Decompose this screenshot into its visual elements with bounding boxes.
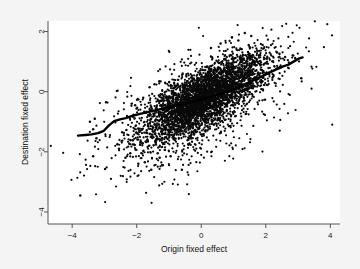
data-point (215, 146, 217, 148)
data-point (244, 92, 246, 94)
data-point (136, 121, 138, 123)
data-point (175, 138, 177, 140)
data-point (179, 85, 181, 87)
data-point (202, 72, 204, 74)
data-point (212, 77, 214, 79)
data-point (238, 100, 240, 102)
data-point (118, 148, 121, 151)
data-point (50, 145, 52, 147)
data-point (252, 55, 254, 57)
data-point (214, 62, 216, 64)
data-point (225, 80, 227, 82)
data-point (106, 146, 108, 148)
data-point (263, 84, 265, 86)
data-point (177, 183, 179, 185)
data-point (189, 108, 191, 110)
data-point (275, 85, 277, 87)
data-point (187, 174, 189, 176)
data-point (186, 171, 188, 173)
data-point (148, 144, 150, 146)
data-point (135, 124, 137, 126)
data-point (115, 185, 117, 187)
data-point (132, 135, 134, 137)
data-point (129, 152, 132, 155)
data-point (183, 90, 185, 92)
data-point (240, 94, 242, 96)
data-point (235, 144, 237, 146)
data-point (235, 82, 237, 84)
data-point (140, 104, 142, 106)
data-point (315, 66, 317, 68)
data-point (205, 129, 207, 131)
data-point (220, 101, 222, 103)
data-point (216, 86, 218, 88)
data-point (89, 131, 91, 133)
data-point (279, 90, 281, 92)
data-point (246, 58, 248, 60)
data-point (168, 143, 170, 145)
data-point (110, 178, 112, 180)
data-point (123, 148, 125, 150)
data-point (182, 132, 184, 134)
data-point (227, 48, 229, 50)
data-point (231, 77, 233, 79)
x-tick-label: 2 (264, 231, 269, 240)
data-point (164, 146, 166, 148)
data-point (175, 150, 177, 152)
figure-container: −4−2024 20−2−4 Origin fixed effect Desti… (0, 0, 360, 269)
data-point (126, 181, 128, 183)
data-point (122, 166, 124, 168)
data-point (280, 45, 282, 47)
data-point (165, 120, 167, 122)
data-point (236, 102, 238, 104)
data-point (245, 87, 247, 89)
data-point (166, 124, 168, 126)
data-point (243, 80, 245, 82)
data-point (206, 136, 208, 138)
data-point (208, 87, 210, 89)
data-point (220, 89, 222, 91)
data-point (243, 57, 245, 59)
data-point (179, 111, 181, 113)
data-point (228, 144, 230, 146)
data-point (104, 168, 106, 170)
data-point (86, 168, 88, 170)
data-point (239, 119, 241, 121)
data-point (252, 125, 254, 127)
data-point (195, 97, 197, 99)
data-point (220, 69, 222, 71)
data-point (184, 120, 186, 122)
data-point (240, 74, 242, 76)
data-point (206, 151, 208, 153)
data-point (218, 59, 220, 61)
data-point (149, 132, 151, 134)
data-point (195, 112, 197, 114)
data-point (181, 76, 183, 78)
data-point (228, 101, 230, 103)
data-point (127, 141, 129, 143)
data-point (140, 119, 142, 121)
data-point (236, 75, 238, 77)
data-point (141, 117, 143, 119)
data-point (212, 135, 214, 137)
data-point (310, 88, 312, 90)
data-point (287, 47, 289, 49)
x-axis-title: Origin fixed effect (161, 244, 228, 254)
data-point (183, 116, 185, 118)
data-point (97, 148, 99, 150)
data-point (79, 171, 81, 173)
data-point (240, 115, 242, 117)
data-point (201, 117, 203, 119)
data-point (182, 86, 184, 88)
data-point (92, 155, 95, 158)
data-point (260, 63, 262, 65)
data-point (192, 114, 194, 116)
data-point (222, 121, 224, 123)
data-point (230, 119, 232, 121)
data-point (160, 93, 162, 95)
data-point (181, 74, 183, 76)
data-point (187, 80, 189, 82)
data-point (150, 169, 153, 172)
data-point (161, 115, 163, 117)
data-point (203, 126, 205, 128)
